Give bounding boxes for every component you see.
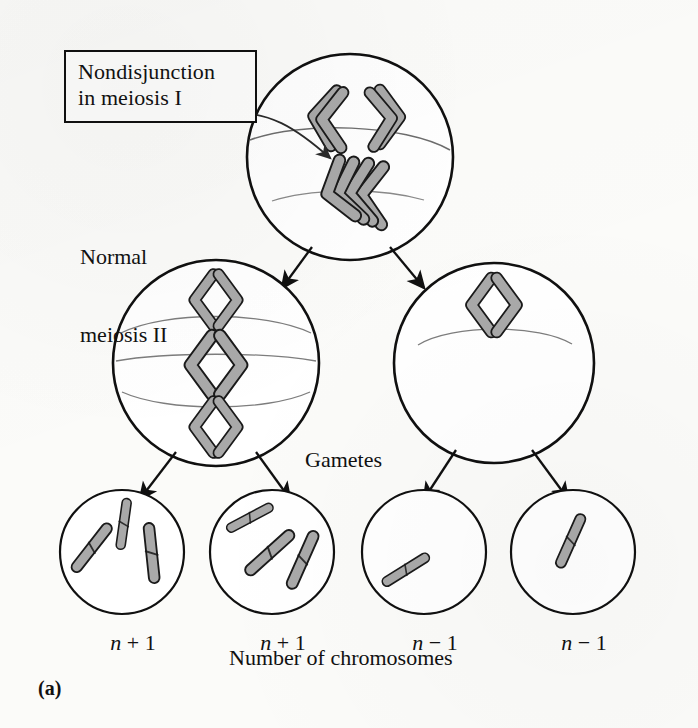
- figure-caption: Number of chromosomes: [229, 645, 453, 671]
- gametes-label: Gametes: [305, 447, 382, 473]
- gamete-1-n: n: [110, 630, 121, 655]
- gamete-cell-1: [60, 490, 184, 614]
- normal-meiosis-label-line2: meiosis II: [80, 322, 167, 348]
- gamete-cell-4: [511, 490, 635, 614]
- normal-meiosis-label: Normal meiosis II: [80, 192, 167, 400]
- arrow-parent-to-right-daughter: [390, 247, 424, 288]
- normal-meiosis-label-line1: Normal: [80, 244, 167, 270]
- panel-label: (a): [38, 677, 61, 701]
- arrow-to-gamete-1: [140, 452, 176, 499]
- gamete-4-membrane: [511, 490, 635, 614]
- nondisjunction-label-line2: in meiosis I: [78, 85, 243, 111]
- gamete-4-n: n: [561, 630, 572, 655]
- gamete-cell-3: [362, 490, 486, 614]
- gamete-4-ploidy-label: n − 1: [513, 604, 633, 682]
- gamete-1-ploidy-label: n + 1: [62, 604, 182, 682]
- parent-cell-group: [235, 54, 453, 260]
- arrow-parent-to-left-daughter: [282, 247, 312, 288]
- nondisjunction-figure: Nondisjunction in meiosis I Normal meios…: [0, 0, 698, 728]
- gamete-1-op: + 1: [121, 630, 155, 655]
- right-daughter-membrane: [394, 263, 594, 463]
- gamete-3-membrane: [362, 490, 486, 614]
- nondisjunction-label-box: Nondisjunction in meiosis I: [64, 50, 257, 123]
- gamete-cell-2: [210, 490, 334, 614]
- nondisjunction-label-line1: Nondisjunction: [78, 59, 243, 85]
- gamete-4-op: − 1: [572, 630, 606, 655]
- right-daughter-cell-group: [394, 263, 594, 463]
